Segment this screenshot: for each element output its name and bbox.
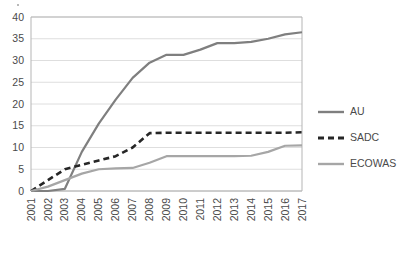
line-chart: 0510152025303540200120022003200420052006… bbox=[0, 0, 403, 254]
x-tick-label: 2017 bbox=[296, 198, 308, 222]
x-tick-label: 2009 bbox=[160, 198, 172, 222]
legend-label-sadc[interactable]: SADC bbox=[350, 131, 380, 143]
series-line-sadc bbox=[31, 132, 302, 191]
y-tick-label: 15 bbox=[12, 119, 24, 131]
y-tick-label: 25 bbox=[12, 76, 24, 88]
y-tick-label: 40 bbox=[12, 11, 24, 23]
x-tick-label: 2011 bbox=[194, 198, 206, 221]
y-tick-label: 5 bbox=[18, 163, 24, 175]
x-tick-label: 2004 bbox=[75, 198, 87, 222]
x-tick-label: 2002 bbox=[42, 198, 54, 222]
y-tick-label: 30 bbox=[12, 54, 24, 66]
y-tick-label: 0 bbox=[18, 185, 24, 197]
x-tick-label: 2012 bbox=[211, 198, 223, 222]
x-tick-label: 2016 bbox=[279, 198, 291, 222]
x-tick-label: 2001 bbox=[25, 198, 37, 222]
series-line-ecowas bbox=[31, 145, 302, 191]
scan-artifact-speck bbox=[17, 4, 19, 6]
x-tick-label: 2014 bbox=[245, 198, 257, 222]
y-tick-label: 35 bbox=[12, 32, 24, 44]
x-tick-label: 2013 bbox=[228, 198, 240, 222]
x-tick-label: 2010 bbox=[177, 198, 189, 222]
legend-label-au[interactable]: AU bbox=[350, 105, 365, 117]
y-tick-label: 20 bbox=[12, 98, 24, 110]
x-tick-label: 2015 bbox=[262, 198, 274, 222]
x-tick-label: 2003 bbox=[58, 198, 70, 222]
legend-label-ecowas[interactable]: ECOWAS bbox=[350, 157, 396, 169]
x-tick-label: 2006 bbox=[109, 198, 121, 222]
x-tick-label: 2007 bbox=[126, 198, 138, 222]
x-tick-label: 2008 bbox=[143, 198, 155, 222]
x-tick-label: 2005 bbox=[92, 198, 104, 222]
series-line-au bbox=[31, 32, 302, 191]
chart-canvas: 0510152025303540200120022003200420052006… bbox=[0, 0, 403, 254]
y-tick-label: 10 bbox=[12, 141, 24, 153]
